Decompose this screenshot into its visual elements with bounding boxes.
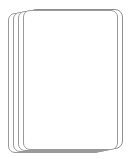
stacked-card-back-4 — [23, 10, 118, 150]
card-stack[interactable]: 10 10 — [0, 0, 134, 159]
